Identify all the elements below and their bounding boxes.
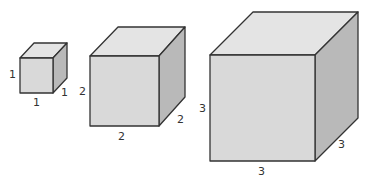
cubes-diagram: 1 1 1 2 2 2 3 3 3 bbox=[0, 0, 372, 185]
cube-1-height-label: 1 bbox=[9, 68, 16, 81]
cube-1-front-face bbox=[20, 58, 53, 93]
cube-2-front-face bbox=[90, 56, 159, 126]
cube-2-width-label: 2 bbox=[118, 130, 125, 143]
cube-2-height-label: 2 bbox=[79, 85, 86, 98]
cube-3: 3 3 3 bbox=[199, 12, 358, 178]
cube-2: 2 2 2 bbox=[79, 27, 185, 143]
cube-1-width-label: 1 bbox=[33, 96, 40, 109]
cube-1: 1 1 1 bbox=[9, 43, 68, 109]
cube-3-height-label: 3 bbox=[199, 102, 206, 115]
cube-3-depth-label: 3 bbox=[338, 138, 345, 151]
cube-3-front-face bbox=[210, 55, 315, 161]
cube-3-width-label: 3 bbox=[258, 165, 265, 178]
cube-2-depth-label: 2 bbox=[177, 113, 184, 126]
cube-1-depth-label: 1 bbox=[61, 86, 68, 99]
